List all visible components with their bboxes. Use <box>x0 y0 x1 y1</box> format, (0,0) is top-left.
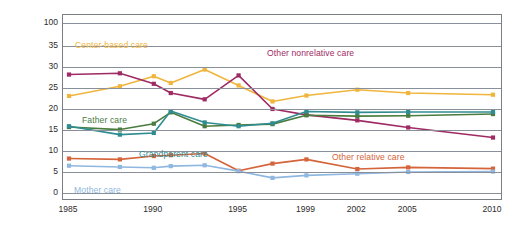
series-marker <box>118 165 122 169</box>
y-tick-label: 15 <box>49 124 58 134</box>
series-marker <box>118 71 122 75</box>
y-tick-label: 30 <box>49 61 58 71</box>
y-tick-label: 35 <box>49 40 58 50</box>
series-marker <box>169 91 173 95</box>
series-marker <box>169 164 173 168</box>
series-marker <box>304 173 308 177</box>
series-marker <box>406 114 410 118</box>
series-marker <box>237 73 241 77</box>
grid-line <box>63 151 501 152</box>
y-tick-label: 0 <box>53 187 58 197</box>
series-marker <box>237 83 241 87</box>
series-label: Grandparent care <box>139 149 208 159</box>
series-marker <box>203 124 207 128</box>
y-tick-label: 20 <box>49 103 58 113</box>
series-marker <box>203 67 207 71</box>
series-marker <box>491 93 495 97</box>
y-axis-tick-labels: 05101520253035100 <box>24 14 58 200</box>
series-marker <box>406 165 410 169</box>
series-marker <box>304 93 308 97</box>
series-marker <box>67 156 71 160</box>
grid-line <box>63 193 501 194</box>
series-line <box>69 70 493 102</box>
series-marker <box>118 157 122 161</box>
series-marker <box>152 82 156 86</box>
series-marker <box>270 121 274 125</box>
series-marker <box>355 167 359 171</box>
y-tick-label: 5 <box>53 166 58 176</box>
series-marker <box>304 109 308 113</box>
series-line <box>69 154 493 171</box>
series-marker <box>270 99 274 103</box>
x-tick-label: 1985 <box>59 204 78 214</box>
x-tick-label: 1990 <box>143 204 162 214</box>
y-tick-label: 25 <box>49 82 58 92</box>
series-marker <box>67 124 71 128</box>
x-tick-label: 1995 <box>228 204 247 214</box>
series-label: Father care <box>82 115 127 125</box>
grid-line <box>63 23 501 24</box>
x-tick-label: 2005 <box>398 204 417 214</box>
series-marker <box>203 120 207 124</box>
x-tick-label: 2010 <box>483 204 502 214</box>
x-tick-label: 1999 <box>296 204 315 214</box>
series-marker <box>67 72 71 76</box>
grid-line <box>63 172 501 173</box>
grid-line <box>63 130 501 131</box>
series-marker <box>118 133 122 137</box>
series-marker <box>169 81 173 85</box>
series-marker <box>203 163 207 167</box>
series-marker <box>491 135 495 139</box>
series-label: Other relative care <box>332 152 405 162</box>
y-tick-label: 100 <box>44 17 58 27</box>
series-marker <box>406 91 410 95</box>
series-marker <box>67 94 71 98</box>
series-label: Center-based care <box>75 40 148 50</box>
series-marker <box>203 97 207 101</box>
chart-container: Percent 05101520253035100 19851990199519… <box>0 0 525 248</box>
series-marker <box>67 164 71 168</box>
series-marker <box>270 176 274 180</box>
grid-line <box>63 88 501 89</box>
y-tick-label: 10 <box>49 145 58 155</box>
series-marker <box>406 125 410 129</box>
series-marker <box>406 110 410 114</box>
series-marker <box>304 157 308 161</box>
series-marker <box>304 113 308 117</box>
grid-line <box>63 67 501 68</box>
series-marker <box>355 114 359 118</box>
series-marker <box>355 110 359 114</box>
series-marker <box>152 166 156 170</box>
series-marker <box>491 110 495 114</box>
series-marker <box>237 124 241 128</box>
series-marker <box>152 131 156 135</box>
series-marker <box>152 74 156 78</box>
x-axis-tick-labels: 1985199019951999200220052010 <box>62 200 502 216</box>
series-marker <box>355 118 359 122</box>
series-marker <box>152 122 156 126</box>
series-label: Mother care <box>74 185 121 195</box>
series-marker <box>270 162 274 166</box>
grid-line <box>63 109 501 110</box>
series-label: Other nonrelative care <box>267 48 354 58</box>
x-tick-label: 2002 <box>347 204 366 214</box>
